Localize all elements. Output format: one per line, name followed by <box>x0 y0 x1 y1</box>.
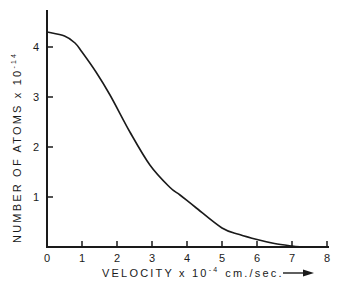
x-axis-label-unit: cm./sec. <box>225 267 284 279</box>
y-tick-label: 2 <box>33 141 39 153</box>
y-tick-label: 4 <box>33 41 39 53</box>
y-tick-label: 1 <box>33 191 39 203</box>
x-axis-label: VELOCITY x 10-4cm./sec. <box>102 266 284 279</box>
arrow-right-icon <box>283 270 314 277</box>
axes <box>46 10 329 247</box>
data-curve <box>47 32 303 247</box>
x-axis-ticks: 012345678 <box>44 241 330 264</box>
x-tick-label: 0 <box>44 252 50 264</box>
y-axis-label-exponent: -14 <box>10 52 17 69</box>
x-tick-label: 8 <box>324 252 330 264</box>
x-tick-label: 6 <box>254 252 260 264</box>
x-tick-label: 7 <box>289 252 295 264</box>
chart: 012345678 1234 NUMBER OF ATOMS x 10-14 V… <box>0 0 339 290</box>
x-axis-label-exponent: -4 <box>209 266 220 273</box>
x-axis-label-main: VELOCITY x 10 <box>102 267 209 279</box>
y-axis-label: NUMBER OF ATOMS x 10-14 <box>10 52 23 243</box>
x-tick-label: 2 <box>114 252 120 264</box>
x-tick-label: 5 <box>219 252 225 264</box>
x-tick-label: 1 <box>79 252 85 264</box>
y-axis-label-main: NUMBER OF ATOMS x 10 <box>11 69 23 243</box>
x-tick-label: 3 <box>149 252 155 264</box>
y-axis-ticks: 1234 <box>33 41 53 203</box>
y-tick-label: 3 <box>33 91 39 103</box>
x-tick-label: 4 <box>184 252 190 264</box>
